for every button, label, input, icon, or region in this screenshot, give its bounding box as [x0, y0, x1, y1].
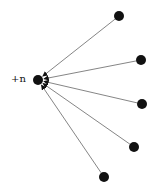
star-diagram — [0, 0, 165, 191]
outer-node-n2 — [136, 55, 146, 65]
center-node — [33, 75, 43, 85]
outer-node-n5 — [99, 172, 109, 182]
edge-arrow-4 — [43, 83, 130, 144]
edge-arrow-3 — [44, 81, 137, 103]
edge-arrow-2 — [44, 61, 136, 79]
edge-arrow-1 — [43, 19, 115, 76]
edges-group — [41, 19, 137, 173]
outer-node-n3 — [137, 99, 147, 109]
outer-node-n4 — [129, 142, 139, 152]
center-node-label: +n — [11, 73, 26, 84]
edge-arrow-5 — [41, 85, 101, 173]
outer-node-n1 — [114, 11, 124, 21]
